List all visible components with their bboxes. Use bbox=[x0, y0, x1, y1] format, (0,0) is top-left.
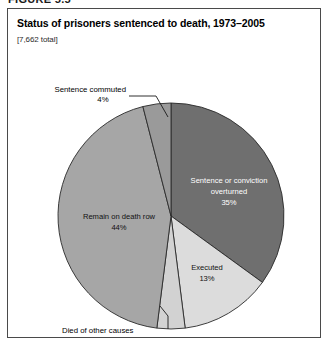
pie-chart: Sentence commuted 4% Sentence or convict… bbox=[0, 0, 329, 342]
label-death-row: Remain on death row bbox=[83, 212, 156, 221]
label-sentence-commuted: Sentence commuted bbox=[54, 85, 126, 94]
label-overturned-value: 35% bbox=[221, 198, 236, 207]
label-executed-value: 13% bbox=[199, 274, 214, 283]
label-death-row-value: 44% bbox=[111, 223, 126, 232]
label-sentence-commuted-value: 4% bbox=[97, 95, 108, 104]
label-overturned-line2: overturned bbox=[211, 187, 247, 196]
label-executed: Executed bbox=[191, 263, 223, 272]
label-overturned-line1: Sentence or conviction bbox=[191, 176, 268, 185]
label-died-other-causes: Died of other causes bbox=[62, 326, 134, 335]
